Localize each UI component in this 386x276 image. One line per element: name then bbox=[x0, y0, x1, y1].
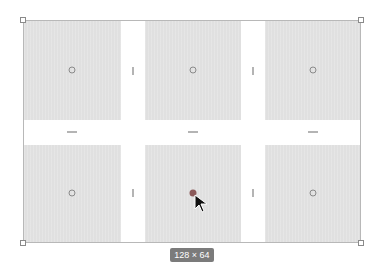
resize-handle-bottom-right[interactable] bbox=[358, 240, 364, 246]
cursor-arrow-icon bbox=[194, 194, 210, 214]
resize-handle-top-right[interactable] bbox=[358, 17, 364, 23]
center-handle-icon[interactable] bbox=[69, 190, 76, 197]
center-handle-icon[interactable] bbox=[69, 67, 76, 74]
resize-handle-top-left[interactable] bbox=[20, 17, 26, 23]
column-gap-handle-icon[interactable] bbox=[253, 189, 254, 197]
center-handle-icon[interactable] bbox=[310, 67, 317, 74]
row-gap-handle-icon[interactable] bbox=[67, 132, 77, 133]
column-gap-handle-icon[interactable] bbox=[133, 67, 134, 75]
center-handle-icon[interactable] bbox=[310, 190, 317, 197]
resize-handle-bottom-left[interactable] bbox=[20, 240, 26, 246]
column-gap-handle-icon[interactable] bbox=[253, 67, 254, 75]
column-gap-handle-icon[interactable] bbox=[133, 189, 134, 197]
row-gap-handle-icon[interactable] bbox=[308, 132, 318, 133]
center-handle-icon[interactable] bbox=[190, 67, 197, 74]
size-badge: 128 × 64 bbox=[170, 248, 214, 262]
row-gap-handle-icon[interactable] bbox=[188, 132, 198, 133]
